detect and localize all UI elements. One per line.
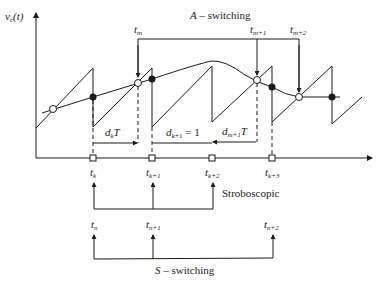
svg-text:tk+2: tk+2: [205, 166, 220, 180]
axis-tick-labels: tk tk+1 tk+2 tk+3: [90, 166, 280, 180]
stroboscopic-label: Stroboscopic: [222, 187, 280, 199]
label-tm1: tm+1: [250, 23, 266, 37]
axes: [36, 13, 372, 158]
filled-circle-marker: [269, 84, 276, 91]
svg-text:tk+3: tk+3: [265, 166, 280, 180]
open-circle-marker: [135, 80, 142, 87]
filled-circle-marker: [90, 94, 97, 101]
interval-label-dk: dkT: [105, 126, 121, 140]
interval-label-dk1: dk+1 = 1: [166, 126, 200, 140]
switching-diagram: vc(t) dkT dk+1 = 1 dm+1T: [0, 0, 382, 291]
stroboscopic-bracket: Stroboscopic: [94, 183, 280, 209]
svg-text:tk+1: tk+1: [146, 166, 160, 180]
label-tm2: tm+2: [290, 23, 307, 37]
svg-text:tk: tk: [90, 166, 97, 180]
open-circle-marker: [50, 106, 57, 113]
s-switching-title: S – switching: [155, 264, 215, 276]
interval-label-dm1: dm+1T: [222, 125, 248, 139]
intersection-markers: [50, 76, 336, 113]
open-circle-marker: [296, 94, 303, 101]
svg-text:tn: tn: [91, 218, 98, 232]
filled-circle-marker: [329, 94, 336, 101]
dashed-guides: [93, 83, 272, 155]
a-switching-bracket: A – switching tm tm+1 tm+2: [134, 9, 307, 92]
y-axis-label: vc(t): [5, 10, 24, 24]
filled-circle-marker: [149, 76, 156, 83]
svg-text:tn+1: tn+1: [146, 218, 161, 232]
label-tm: tm: [134, 23, 142, 37]
open-circle-marker: [254, 77, 261, 84]
s-switching-bracket: tn tn+1 tn+2 S – switching: [91, 218, 279, 276]
interval-arrows: [93, 142, 256, 143]
svg-text:tn+2: tn+2: [264, 218, 279, 232]
a-switching-title: A – switching: [189, 9, 251, 21]
